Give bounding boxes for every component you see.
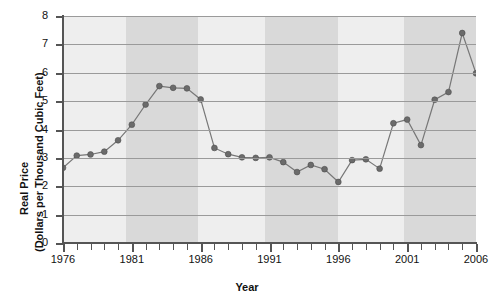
- y-axis-tick-label: 6: [24, 66, 48, 78]
- x-axis-tick-label: 1986: [181, 253, 221, 265]
- gridline: [63, 101, 476, 102]
- y-axis-tick-label: 5: [24, 94, 48, 106]
- x-axis-tick-minor: [366, 244, 367, 250]
- data-point: [459, 30, 465, 36]
- x-axis-tick-minor: [228, 244, 229, 250]
- x-axis-tick-minor: [146, 244, 147, 250]
- x-axis-tick-major: [476, 244, 478, 252]
- x-axis-tick-minor: [435, 244, 436, 250]
- gridline: [63, 186, 476, 187]
- y-axis-line: [62, 15, 64, 244]
- data-point: [129, 122, 135, 128]
- x-axis-tick-label: 1996: [318, 253, 358, 265]
- data-point: [322, 166, 328, 172]
- y-axis-tick-label: 0: [24, 236, 48, 248]
- plot-area: [63, 16, 476, 243]
- x-axis-tick-minor: [352, 244, 353, 250]
- x-axis-tick-minor: [283, 244, 284, 250]
- gridline: [63, 158, 476, 159]
- y-axis-tick-label: 4: [24, 123, 48, 135]
- data-point: [101, 149, 107, 155]
- gridline: [63, 73, 476, 74]
- x-axis-tick-minor: [159, 244, 160, 250]
- x-axis-tick-minor: [77, 244, 78, 250]
- data-point: [280, 159, 286, 165]
- y-axis-tick-label: 8: [24, 9, 48, 21]
- x-axis-tick-minor: [242, 244, 243, 250]
- x-axis-tick-minor: [91, 244, 92, 250]
- x-axis-tick-label: 2001: [387, 253, 427, 265]
- data-point: [335, 179, 341, 185]
- x-axis-tick-minor: [173, 244, 174, 250]
- x-axis-tick-major: [407, 244, 409, 252]
- x-axis-tick-minor: [297, 244, 298, 250]
- chart-root: Real Price (Dollars per Thousand Cubic F…: [0, 0, 494, 306]
- x-axis-tick-major: [338, 244, 340, 252]
- x-axis-tick-label: 1981: [112, 253, 152, 265]
- x-axis-tick-minor: [462, 244, 463, 250]
- x-axis-tick-major: [201, 244, 203, 252]
- data-point: [143, 102, 149, 108]
- data-point: [446, 89, 452, 95]
- x-axis-tick-major: [270, 244, 272, 252]
- data-point: [308, 162, 314, 168]
- y-axis-tick-label: 3: [24, 151, 48, 163]
- x-axis-tick-minor: [104, 244, 105, 250]
- y-axis-tick-label: 1: [24, 208, 48, 220]
- data-point: [88, 152, 94, 158]
- data-point: [418, 142, 424, 148]
- x-axis-tick-minor: [380, 244, 381, 250]
- data-point: [170, 85, 176, 91]
- data-point: [184, 85, 190, 91]
- x-axis-tick-minor: [421, 244, 422, 250]
- y-axis-ticks: 012345678: [0, 0, 56, 260]
- data-point: [294, 169, 300, 175]
- data-point: [404, 117, 410, 123]
- x-axis-tick-minor: [311, 244, 312, 250]
- x-axis-tick-major: [132, 244, 134, 252]
- x-axis-tick-minor: [393, 244, 394, 250]
- gridline: [63, 215, 476, 216]
- x-axis-tick-minor: [187, 244, 188, 250]
- x-axis-tick-major: [63, 244, 65, 252]
- x-axis-tick-minor: [448, 244, 449, 250]
- x-axis-title: Year: [0, 281, 494, 293]
- x-axis-tick-minor: [214, 244, 215, 250]
- data-point: [212, 145, 218, 151]
- x-axis-tick-minor: [256, 244, 257, 250]
- x-axis-tick-label: 1976: [43, 253, 83, 265]
- y-axis-tick-label: 2: [24, 179, 48, 191]
- x-axis-tick-minor: [118, 244, 119, 250]
- gridline: [63, 16, 476, 17]
- x-axis-tick-minor: [325, 244, 326, 250]
- x-axis-tick-label: 1991: [250, 253, 290, 265]
- data-point: [156, 83, 162, 89]
- gridline: [63, 130, 476, 131]
- data-point: [391, 120, 397, 126]
- data-point: [377, 166, 383, 172]
- x-axis-tick-label: 2006: [456, 253, 494, 265]
- gridline: [63, 44, 476, 45]
- data-point: [225, 151, 231, 157]
- data-point: [115, 137, 121, 143]
- y-axis-tick-label: 7: [24, 37, 48, 49]
